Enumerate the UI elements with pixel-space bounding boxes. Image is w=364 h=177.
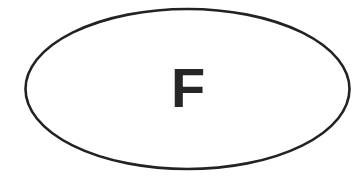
node-label: F	[171, 56, 205, 119]
diagram-canvas: F	[0, 0, 364, 177]
